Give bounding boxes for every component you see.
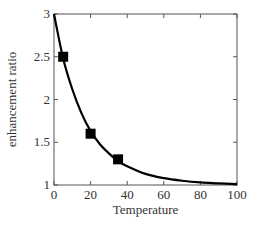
enhancement-ratio-chart: 02040608010011.522.53Temperatureenhancem… <box>0 0 256 227</box>
y-tick-label: 2 <box>44 92 51 107</box>
data-marker-square <box>113 154 123 164</box>
data-marker-square <box>58 52 68 62</box>
plot-area: 02040608010011.522.53Temperatureenhancem… <box>4 6 247 217</box>
x-tick-label: 20 <box>84 187 97 202</box>
x-tick-label: 80 <box>194 187 207 202</box>
x-tick-label: 60 <box>157 187 170 202</box>
x-tick-label: 0 <box>51 187 58 202</box>
y-tick-label: 1.5 <box>34 134 50 149</box>
y-tick-label: 2.5 <box>34 49 50 64</box>
plot-frame <box>54 14 237 185</box>
x-tick-label: 40 <box>121 187 134 202</box>
y-axis-title: enhancement ratio <box>4 52 19 148</box>
x-tick-label: 100 <box>227 187 247 202</box>
fit-curve <box>54 14 237 184</box>
data-marker-square <box>86 129 96 139</box>
y-tick-label: 1 <box>44 177 51 192</box>
y-tick-label: 3 <box>44 6 51 21</box>
x-axis-title: Temperature <box>113 202 179 217</box>
